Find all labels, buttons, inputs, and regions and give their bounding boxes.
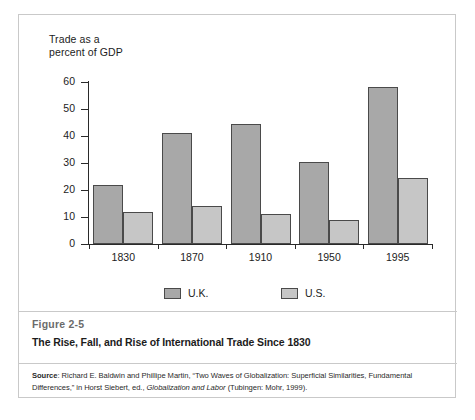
chart-plot-area: Trade as a percent of GDP 0102030405060 … [19,15,457,297]
bar-uk-1870 [162,133,192,244]
figure-container: Trade as a percent of GDP 0102030405060 … [18,14,456,398]
x-tick-mark [158,244,159,249]
y-tick-mark [81,190,89,191]
y-tick-label: 10 [35,210,75,222]
legend-item-uk: U.K. [164,287,208,299]
bar-us-1830 [123,212,153,244]
x-tick-label: 1910 [231,251,291,263]
source-label: Source [32,371,57,380]
bar-uk-1950 [299,162,329,244]
bar-us-1995 [398,178,428,244]
y-tick-label: 30 [35,156,75,168]
y-tick-mark [81,217,89,218]
x-tick-mark [89,244,90,249]
y-tick-label: 60 [35,75,75,87]
x-tick-label: 1995 [368,251,428,263]
y-axis-title: Trade as a percent of GDP [49,33,123,59]
y-tick-mark [81,163,89,164]
y-tick-label: 40 [35,129,75,141]
bar-us-1910 [261,214,291,244]
x-axis-line [88,244,432,245]
legend-item-us: U.S. [281,287,325,299]
x-tick-mark [432,244,433,249]
y-tick-mark [81,244,89,245]
caption-divider-top [19,311,457,312]
bar-uk-1995 [368,87,398,244]
legend-label: U.S. [305,287,325,299]
x-tick-label: 1870 [162,251,222,263]
legend-label: U.K. [188,287,208,299]
y-tick-mark [81,109,89,110]
bar-uk-1830 [93,185,123,244]
source-text-part2: (Tubingen: Mohr, 1999). [226,383,308,392]
figure-title: The Rise, Fall, and Rise of Internationa… [32,336,444,348]
x-tick-mark [226,244,227,249]
figure-number: Figure 2-5 [32,318,444,330]
x-tick-label: 1950 [299,251,359,263]
bar-uk-1910 [231,124,261,244]
caption-divider-bottom [19,363,457,364]
chart-legend: U.K.U.S. [19,283,457,309]
source-italic-title: Globalization and Labor [147,383,226,392]
x-tick-label: 1830 [93,251,153,263]
y-tick-mark [81,136,89,137]
y-tick-label: 50 [35,102,75,114]
bar-us-1950 [329,220,359,244]
source-note: Source: Richard E. Baldwin and Phillipe … [32,370,447,393]
x-tick-mark [363,244,364,249]
bar-us-1870 [192,206,222,244]
legend-swatch-icon [281,288,298,299]
x-tick-mark [295,244,296,249]
y-tick-mark [81,82,89,83]
caption-block: Figure 2-5 The Rise, Fall, and Rise of I… [32,318,444,348]
y-tick-label: 0 [35,237,75,249]
legend-swatch-icon [164,288,181,299]
y-tick-label: 20 [35,183,75,195]
